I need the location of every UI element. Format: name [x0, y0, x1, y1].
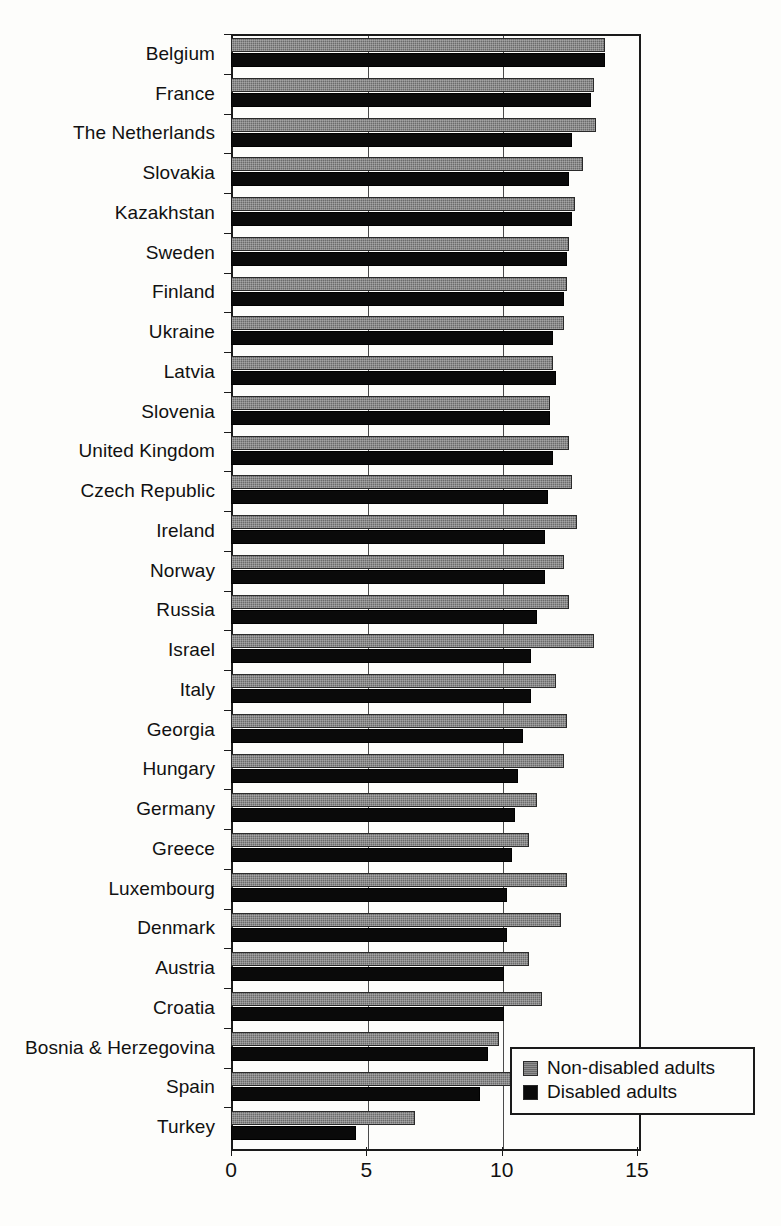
x-axis-tick-label: 5	[360, 1158, 372, 1182]
bar-row	[231, 670, 637, 710]
bar-non-disabled	[231, 277, 567, 291]
bar-disabled	[231, 570, 545, 584]
x-axis-tick-label: 0	[225, 1158, 237, 1182]
y-axis-label: Greece	[0, 829, 224, 869]
bar-non-disabled	[231, 634, 594, 648]
bar-row	[231, 750, 637, 790]
y-axis-label: Sweden	[0, 233, 224, 273]
bar-row	[231, 869, 637, 909]
y-axis-tick	[224, 1107, 231, 1108]
legend-item-non-disabled: Non-disabled adults	[523, 1056, 744, 1080]
bar-row	[231, 591, 637, 631]
bar-disabled	[231, 967, 504, 981]
bar-row	[231, 352, 637, 392]
bar-non-disabled	[231, 754, 564, 768]
bar-disabled	[231, 172, 569, 186]
y-axis-label: Latvia	[0, 352, 224, 392]
chart-legend: Non-disabled adults Disabled adults	[510, 1047, 755, 1115]
bar-chart: BelgiumFranceThe NetherlandsSlovakiaKaza…	[0, 0, 781, 1226]
bar-non-disabled	[231, 674, 556, 688]
y-axis-label: Finland	[0, 273, 224, 313]
bar-disabled	[231, 649, 531, 663]
bar-row	[231, 789, 637, 829]
y-axis-tick	[224, 312, 231, 313]
bar-non-disabled	[231, 992, 542, 1006]
y-axis-label: Italy	[0, 670, 224, 710]
bar-disabled	[231, 1007, 504, 1021]
legend-label-non-disabled: Non-disabled adults	[547, 1056, 715, 1080]
bar-disabled	[231, 888, 507, 902]
y-axis-tick	[224, 591, 231, 592]
y-axis-tick	[224, 153, 231, 154]
bar-non-disabled	[231, 157, 583, 171]
x-axis-tick-label: 15	[625, 1158, 648, 1182]
bar-non-disabled	[231, 714, 567, 728]
y-axis-tick	[224, 1068, 231, 1069]
bar-non-disabled	[231, 1111, 415, 1125]
y-axis-tick	[224, 193, 231, 194]
y-axis-tick	[224, 710, 231, 711]
y-axis-label: Czech Republic	[0, 471, 224, 511]
bar-disabled	[231, 411, 550, 425]
y-axis-label: Germany	[0, 789, 224, 829]
bar-non-disabled	[231, 436, 569, 450]
y-axis-tick	[224, 1028, 231, 1029]
y-axis-label: Bosnia & Herzegovina	[0, 1028, 224, 1068]
y-axis-tick	[224, 829, 231, 830]
bar-non-disabled	[231, 316, 564, 330]
bar-non-disabled	[231, 952, 529, 966]
y-axis-tick	[224, 511, 231, 512]
bar-non-disabled	[231, 38, 605, 52]
y-axis-label: United Kingdom	[0, 432, 224, 472]
y-axis-tick	[224, 789, 231, 790]
y-axis-label: Belgium	[0, 34, 224, 74]
bar-row	[231, 74, 637, 114]
y-axis-label: Israel	[0, 630, 224, 670]
bar-disabled	[231, 769, 518, 783]
y-axis-label: Ireland	[0, 511, 224, 551]
bar-disabled	[231, 530, 545, 544]
legend-label-disabled: Disabled adults	[547, 1080, 677, 1104]
bar-disabled	[231, 928, 507, 942]
bar-disabled	[231, 610, 537, 624]
bar-disabled	[231, 292, 564, 306]
y-axis-tick	[224, 432, 231, 433]
x-axis-tick	[502, 1147, 503, 1156]
bar-rows	[231, 34, 637, 1147]
bar-row	[231, 432, 637, 472]
y-axis-label: France	[0, 74, 224, 114]
bar-non-disabled	[231, 118, 596, 132]
x-axis-ticks	[231, 1147, 637, 1157]
bar-non-disabled	[231, 515, 577, 529]
y-axis-tick	[224, 948, 231, 949]
y-axis-label: Turkey	[0, 1107, 224, 1147]
y-axis-tick	[224, 630, 231, 631]
bar-disabled	[231, 1087, 480, 1101]
bar-disabled	[231, 53, 605, 67]
bar-row	[231, 829, 637, 869]
black-swatch-icon	[523, 1085, 538, 1100]
bar-row	[231, 233, 637, 273]
bar-row	[231, 710, 637, 750]
bar-non-disabled	[231, 1072, 523, 1086]
y-axis-label: Austria	[0, 948, 224, 988]
y-axis-tick	[224, 909, 231, 910]
bar-non-disabled	[231, 595, 569, 609]
y-axis-label: Luxembourg	[0, 869, 224, 909]
y-axis-label: Georgia	[0, 710, 224, 750]
bar-row	[231, 34, 637, 74]
bar-row	[231, 114, 637, 154]
y-axis-label: Hungary	[0, 750, 224, 790]
bar-row	[231, 392, 637, 432]
bar-row	[231, 273, 637, 313]
y-axis-label: Russia	[0, 591, 224, 631]
x-axis-tick-label: 10	[490, 1158, 513, 1182]
bar-disabled	[231, 490, 548, 504]
bar-non-disabled	[231, 833, 529, 847]
bar-disabled	[231, 1126, 356, 1140]
y-axis-tick	[224, 670, 231, 671]
bar-row	[231, 551, 637, 591]
x-axis-tick	[637, 1147, 638, 1156]
y-axis-tick	[224, 114, 231, 115]
bar-non-disabled	[231, 873, 567, 887]
